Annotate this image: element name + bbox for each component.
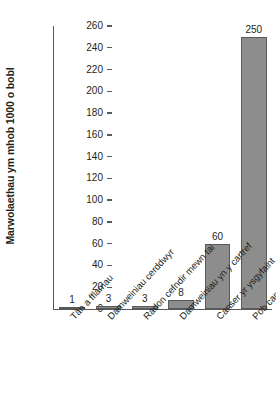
bar-value-label: 60 bbox=[212, 231, 223, 243]
y-axis-tick-label: 180 bbox=[86, 106, 103, 120]
y-axis-tick-mark bbox=[107, 243, 112, 244]
bar-value-label: 3 bbox=[106, 293, 112, 305]
bar-value-label: 3 bbox=[142, 293, 148, 305]
y-axis-title-text: Marwolaethau ym mhob 1000 o bobl bbox=[4, 67, 16, 244]
y-axis-tick-mark bbox=[107, 199, 112, 200]
bar-chart: Marwolaethau ym mhob 1000 o bobl 0204060… bbox=[0, 0, 276, 417]
y-axis-tick-label: 160 bbox=[86, 128, 103, 142]
y-axis-tick-label: 200 bbox=[86, 84, 103, 98]
y-axis-tick-label: 140 bbox=[86, 150, 103, 164]
y-axis-tick-mark bbox=[107, 156, 112, 157]
bar-value-label: 250 bbox=[245, 24, 262, 36]
y-axis-tick-label: 100 bbox=[86, 193, 103, 207]
y-axis-tick-label: 80 bbox=[92, 215, 103, 229]
y-axis-tick-label: 240 bbox=[86, 41, 103, 55]
y-axis-tick-mark bbox=[107, 25, 112, 26]
y-axis-tick-mark bbox=[107, 69, 112, 70]
y-axis-tick-label: 40 bbox=[92, 258, 103, 272]
bar-value-label: 1 bbox=[69, 294, 75, 306]
y-axis-tick-mark bbox=[107, 221, 112, 222]
y-axis-tick-label: 60 bbox=[92, 237, 103, 251]
y-axis-tick-mark bbox=[107, 134, 112, 135]
y-axis-tick-mark bbox=[107, 178, 112, 179]
y-axis-tick-mark bbox=[107, 265, 112, 266]
y-axis-tick-label: 260 bbox=[86, 19, 103, 33]
y-axis-tick-label: 120 bbox=[86, 171, 103, 185]
y-axis-tick-label: 220 bbox=[86, 63, 103, 77]
y-axis-tick-label: 0 bbox=[97, 302, 103, 316]
y-axis-tick-mark bbox=[107, 91, 112, 92]
y-axis-title: Marwolaethau ym mhob 1000 o bobl bbox=[0, 0, 20, 312]
y-axis-tick-mark bbox=[107, 47, 112, 48]
y-axis-tick-mark bbox=[107, 112, 112, 113]
